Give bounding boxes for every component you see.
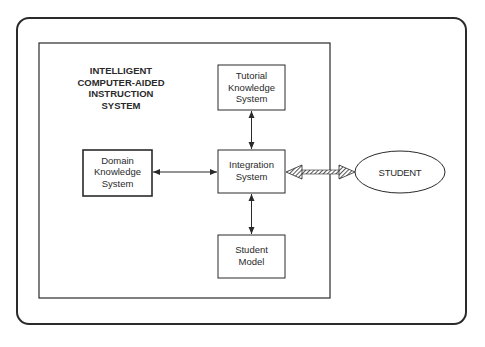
system-title: INTELLIGENT COMPUTER-AIDED INSTRUCTION S… <box>77 65 164 111</box>
node-domain-knowledge-system: Domain Knowledge System <box>83 150 152 196</box>
node-label: Knowledge <box>228 82 275 93</box>
title-line-3: INSTRUCTION <box>89 88 154 99</box>
node-label: System <box>102 178 134 189</box>
node-label: Integration <box>229 159 274 170</box>
node-student-model: Student Model <box>218 235 285 278</box>
arrow-integration-student <box>286 165 355 179</box>
node-label: Tutorial <box>236 70 267 81</box>
title-line-2: COMPUTER-AIDED <box>77 77 164 88</box>
title-line-4: SYSTEM <box>101 100 140 111</box>
title-line-1: INTELLIGENT <box>90 65 152 76</box>
node-label: System <box>236 93 268 104</box>
node-tutorial-knowledge-system: Tutorial Knowledge System <box>218 65 285 110</box>
node-integration-system: Integration System <box>218 150 285 193</box>
node-label: Domain <box>101 155 134 166</box>
node-student: STUDENT <box>355 151 445 193</box>
node-label: Model <box>239 256 265 267</box>
node-label: Student <box>235 244 268 255</box>
node-label: System <box>236 171 268 182</box>
node-label: STUDENT <box>379 167 422 178</box>
icai-diagram: INTELLIGENT COMPUTER-AIDED INSTRUCTION S… <box>0 0 485 347</box>
node-label: Knowledge <box>94 166 141 177</box>
